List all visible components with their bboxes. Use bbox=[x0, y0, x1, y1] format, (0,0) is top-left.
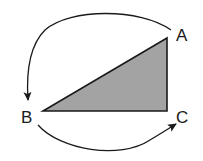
shaded-triangle bbox=[43, 38, 167, 111]
vertex-label-c: C bbox=[176, 109, 188, 126]
vertex-label-a: A bbox=[176, 27, 187, 44]
vertex-label-b: B bbox=[21, 109, 32, 126]
arrow-b-to-c bbox=[38, 124, 176, 151]
triangle-rotation-diagram bbox=[0, 0, 203, 161]
